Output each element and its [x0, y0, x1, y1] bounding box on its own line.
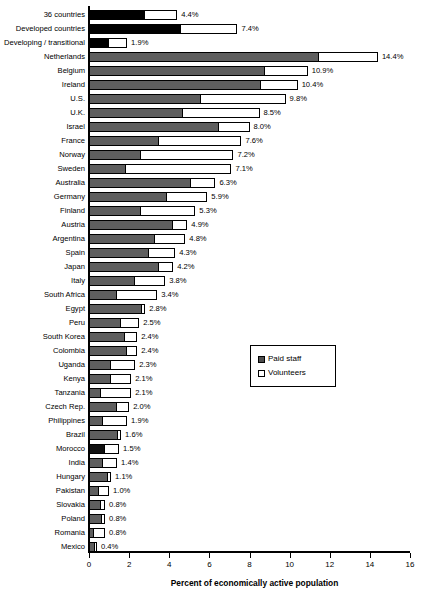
x-axis-tick	[410, 553, 411, 558]
stacked-bar	[89, 528, 105, 538]
chart-row: Japan4.2%	[89, 261, 410, 276]
bar-segment-volunteers	[111, 375, 130, 383]
stacked-bar	[89, 444, 119, 454]
category-label: South Korea	[0, 331, 85, 342]
stacked-bar	[89, 150, 233, 160]
bar-segment-volunteers	[99, 487, 108, 495]
bar-value-label: 2.1%	[135, 373, 152, 385]
category-label: U.K.	[0, 107, 85, 118]
chart-row: Pakistan1.0%	[89, 485, 410, 500]
bar-value-label: 0.8%	[109, 499, 126, 511]
chart-row: 36 countries4.4%	[89, 9, 410, 24]
stacked-bar	[89, 514, 105, 524]
bar-segment-volunteers	[159, 137, 240, 145]
category-label: Poland	[0, 513, 85, 524]
stacked-bar	[89, 374, 131, 384]
category-label: Developing / transitional	[0, 37, 85, 48]
category-label: Colombia	[0, 345, 85, 356]
stacked-bar	[89, 360, 135, 370]
bar-segment-paid-staff	[90, 277, 135, 285]
legend-item-volunteers: Volunteers	[258, 366, 328, 380]
bar-segment-volunteers	[95, 543, 97, 551]
bar-segment-paid-staff	[90, 53, 319, 61]
bar-segment-volunteers	[155, 235, 184, 243]
x-axis-tick	[89, 553, 90, 558]
bar-segment-paid-staff	[90, 375, 111, 383]
bar-value-label: 2.1%	[135, 387, 152, 399]
bar-segment-volunteers	[149, 249, 174, 257]
bar-segment-volunteers	[261, 81, 297, 89]
bar-segment-paid-staff	[90, 431, 118, 439]
stacked-bar	[89, 164, 231, 174]
category-label: Norway	[0, 149, 85, 160]
bar-segment-volunteers	[135, 277, 164, 285]
chart-row: Morocco1.5%	[89, 443, 410, 458]
bar-value-label: 4.2%	[177, 261, 194, 273]
bar-segment-volunteers	[159, 263, 173, 271]
chart-row: Finland5.3%	[89, 205, 410, 220]
bar-value-label: 5.9%	[211, 191, 228, 203]
x-axis-tick-label: 12	[318, 559, 342, 570]
chart-row: Czech Rep.2.0%	[89, 401, 410, 416]
category-label: Pakistan	[0, 485, 85, 496]
stacked-bar	[89, 500, 105, 510]
bar-value-label: 0.8%	[109, 527, 126, 539]
bar-segment-paid-staff	[90, 263, 159, 271]
category-label: South Africa	[0, 289, 85, 300]
chart-row: Developing / transitional1.9%	[89, 37, 410, 52]
category-label: Australia	[0, 177, 85, 188]
bar-segment-paid-staff	[90, 137, 159, 145]
x-axis-tick	[290, 553, 291, 558]
filled-square-icon	[258, 356, 265, 363]
bar-segment-paid-staff	[90, 333, 125, 341]
stacked-bar	[89, 206, 195, 216]
bar-segment-volunteers	[105, 445, 118, 453]
chart-row: U.K.8.5%	[89, 107, 410, 122]
chart-row: Ireland10.4%	[89, 79, 410, 94]
bar-segment-volunteers	[126, 165, 231, 173]
bar-segment-volunteers	[94, 529, 105, 537]
chart-row: Israel8.0%	[89, 121, 410, 136]
bar-value-label: 7.4%	[241, 23, 258, 35]
x-axis-tick	[250, 553, 251, 558]
chart-row: Spain4.3%	[89, 247, 410, 262]
category-label: Morocco	[0, 443, 85, 454]
bar-segment-paid-staff	[90, 179, 191, 187]
chart-row: Developed countries7.4%	[89, 23, 410, 38]
chart-row: India1.4%	[89, 457, 410, 472]
category-label: Tanzania	[0, 387, 85, 398]
category-label: Austria	[0, 219, 85, 230]
bar-value-label: 4.4%	[181, 9, 198, 21]
bar-value-label: 7.6%	[245, 135, 262, 147]
x-axis-tick-label: 0	[77, 559, 101, 570]
chart-row: Peru2.5%	[89, 317, 410, 332]
x-axis-tick	[370, 553, 371, 558]
legend-item-paid-staff: Paid staff	[258, 352, 328, 366]
bar-segment-volunteers	[141, 207, 194, 215]
bar-segment-volunteers	[118, 431, 120, 439]
stacked-bar	[89, 486, 109, 496]
bar-segment-volunteers	[141, 151, 232, 159]
category-label: Italy	[0, 275, 85, 286]
bar-segment-volunteers	[145, 11, 176, 19]
x-axis-tick	[129, 553, 130, 558]
chart-row: France7.6%	[89, 135, 410, 150]
bar-value-label: 1.5%	[123, 443, 140, 455]
stacked-bar	[89, 542, 97, 552]
bar-value-label: 7.1%	[235, 163, 252, 175]
category-label: Finland	[0, 205, 85, 216]
bar-segment-paid-staff	[90, 487, 99, 495]
bar-segment-volunteers	[191, 179, 215, 187]
bar-segment-volunteers	[102, 515, 104, 523]
bar-segment-paid-staff	[90, 193, 167, 201]
bar-segment-volunteers	[319, 53, 377, 61]
chart-row: U.S.9.8%	[89, 93, 410, 108]
bar-segment-volunteers	[173, 221, 187, 229]
bar-segment-paid-staff	[90, 67, 265, 75]
bar-segment-volunteers	[219, 123, 249, 131]
bar-segment-volunteers	[127, 347, 137, 355]
bar-segment-volunteers	[142, 305, 144, 313]
bar-segment-volunteers	[109, 39, 126, 47]
stacked-bar	[89, 220, 187, 230]
bar-value-label: 10.9%	[312, 65, 334, 77]
